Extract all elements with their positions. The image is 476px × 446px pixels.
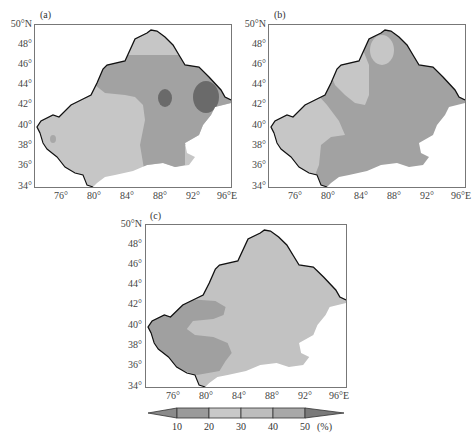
map-frame-b: [268, 24, 466, 188]
xtick-b-96: 96°E: [446, 190, 476, 201]
xtick-b-92: 92°: [412, 190, 442, 201]
ytick-c-36: 36°: [110, 359, 142, 370]
xtick-c-84: 84°: [224, 390, 254, 401]
region-map-b: [269, 25, 465, 187]
region-map-c: [146, 225, 346, 387]
panel-label-b: (b): [274, 9, 286, 20]
ytick-a-46: 46°: [0, 58, 32, 69]
ytick-a-38: 38°: [0, 139, 32, 150]
ytick-a-36: 36°: [0, 159, 32, 170]
xtick-a-80: 80°: [79, 190, 109, 201]
colorbar-tick-10: 10: [172, 421, 182, 432]
ytick-b-34: 34°: [234, 180, 266, 191]
xtick-a-92: 92°: [178, 190, 208, 201]
ytick-c-48: 48°: [110, 238, 142, 249]
map-frame-a: [34, 24, 232, 188]
ytick-c-38: 38°: [110, 339, 142, 350]
ytick-a-44: 44°: [0, 78, 32, 89]
ytick-c-46: 46°: [110, 258, 142, 269]
ytick-b-50: 50°N: [234, 18, 266, 29]
xtick-a-76: 76°: [46, 190, 76, 201]
ytick-b-38: 38°: [234, 139, 266, 150]
ytick-c-50: 50°N: [110, 218, 142, 229]
colorbar-tick-20: 20: [204, 421, 214, 432]
xtick-c-88: 88°: [257, 390, 287, 401]
xtick-a-84: 84°: [112, 190, 142, 201]
xtick-c-80: 80°: [191, 390, 221, 401]
ytick-c-40: 40°: [110, 319, 142, 330]
xtick-a-88: 88°: [145, 190, 175, 201]
ytick-b-46: 46°: [234, 58, 266, 69]
xtick-b-88: 88°: [379, 190, 409, 201]
colorbar-tick-50: 50: [300, 421, 310, 432]
xtick-a-96: 96°E: [212, 190, 242, 201]
ytick-c-44: 44°: [110, 278, 142, 289]
ytick-b-36: 36°: [234, 159, 266, 170]
colorbar-graphic: [148, 407, 344, 419]
xtick-c-96: 96°E: [324, 390, 354, 401]
ytick-a-48: 48°: [0, 38, 32, 49]
panel-label-a: (a): [40, 9, 51, 20]
region-map-a: [35, 25, 231, 187]
ytick-b-44: 44°: [234, 78, 266, 89]
panel-label-c: (c): [150, 210, 161, 221]
ytick-a-42: 42°: [0, 98, 32, 109]
xtick-c-92: 92°: [290, 390, 320, 401]
ytick-b-42: 42°: [234, 98, 266, 109]
map-frame-c: [145, 224, 347, 388]
ytick-a-34: 34°: [0, 180, 32, 191]
ytick-b-40: 40°: [234, 119, 266, 130]
xtick-b-84: 84°: [346, 190, 376, 201]
xtick-b-76: 76°: [280, 190, 310, 201]
xtick-c-76: 76°: [158, 390, 188, 401]
colorbar-tick-30: 30: [236, 421, 246, 432]
ytick-c-42: 42°: [110, 298, 142, 309]
ytick-b-48: 48°: [234, 38, 266, 49]
ytick-c-34: 34°: [110, 380, 142, 391]
ytick-a-50: 50°N: [0, 18, 32, 29]
xtick-b-80: 80°: [313, 190, 343, 201]
ytick-a-40: 40°: [0, 119, 32, 130]
colorbar-tick-40: 40: [268, 421, 278, 432]
colorbar-unit: (%): [317, 421, 332, 432]
